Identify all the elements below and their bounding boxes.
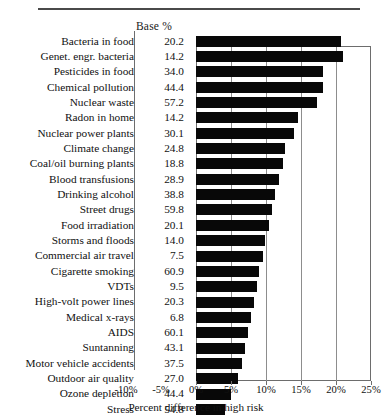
- risk-label: VDTs: [107, 279, 134, 294]
- risk-label: Pesticides in food: [54, 64, 134, 79]
- bar-12: [196, 220, 269, 231]
- base-percent-value: 9.5: [137, 279, 184, 294]
- base-percent-value: 44.4: [137, 80, 184, 95]
- base-percent-column-header: Base %: [136, 20, 190, 32]
- x-axis-title: Percent difference in high risk: [128, 401, 263, 413]
- bar-5: [196, 112, 298, 123]
- risk-label: Cigarette smoking: [51, 264, 134, 279]
- bar-10: [196, 189, 275, 200]
- base-percent-value: 38.8: [137, 187, 184, 202]
- x-tick-label-0: -10%: [115, 384, 138, 395]
- base-percent-value: 60.9: [137, 264, 184, 279]
- risk-label: High-volt power lines: [35, 294, 134, 309]
- risk-label: Medical x-rays: [66, 310, 134, 325]
- x-tick-label-1: -5%: [152, 384, 170, 395]
- bar-14: [196, 251, 263, 262]
- risk-label: Blood transfusions: [49, 172, 134, 187]
- bar-11: [196, 204, 272, 215]
- x-tickmark-6: [336, 381, 337, 385]
- bar-7: [196, 143, 285, 154]
- base-percent-value: 14.2: [137, 49, 184, 64]
- bar-17: [196, 297, 254, 308]
- x-tickmark-4: [266, 381, 267, 385]
- risk-label: Suntanning: [83, 340, 134, 355]
- risk-label: AIDS: [108, 325, 134, 340]
- bar-15: [196, 266, 259, 277]
- risk-label: Storms and floods: [52, 233, 134, 248]
- x-tickmark-7: [371, 381, 372, 385]
- bar-16: [196, 281, 257, 292]
- x-tick-label-4: 10%: [256, 384, 275, 395]
- base-percent-value: 43.1: [137, 340, 184, 355]
- base-percent-value: 28.9: [137, 172, 184, 187]
- top-divider-rule: [38, 8, 360, 10]
- risk-label: Bacteria in food: [61, 34, 134, 49]
- bar-0: [196, 36, 341, 47]
- base-percent-value: 14.2: [137, 110, 184, 125]
- base-percent-value: 37.5: [137, 356, 184, 371]
- bar-20: [196, 343, 245, 354]
- bar-19: [196, 327, 248, 338]
- risk-label: Street drugs: [80, 202, 134, 217]
- bar-4: [196, 97, 317, 108]
- bar-13: [196, 235, 265, 246]
- x-tick-label-6: 20%: [326, 384, 345, 395]
- x-tick-label-3: 5%: [224, 384, 238, 395]
- bar-1: [196, 51, 343, 62]
- base-percent-value: 24.8: [137, 141, 184, 156]
- x-tick-label-2: 0%: [189, 384, 203, 395]
- bar-9: [196, 174, 279, 185]
- bar-3: [196, 82, 323, 93]
- base-percent-value: 18.8: [137, 156, 184, 171]
- bar-2: [196, 66, 323, 77]
- risk-label: Genet. engr. bacteria: [41, 49, 134, 64]
- risk-label: Food irradiation: [61, 218, 134, 233]
- risk-label: Nuclear power plants: [37, 126, 134, 141]
- base-percent-value: 7.5: [137, 248, 184, 263]
- x-tick-label-7: 25%: [361, 384, 380, 395]
- base-percent-value: 14.0: [137, 233, 184, 248]
- base-percent-value: 34.0: [137, 64, 184, 79]
- base-percent-value: 20.2: [137, 34, 184, 49]
- risk-label: Nuclear waste: [70, 95, 134, 110]
- risk-label: Coal/oil burning plants: [30, 156, 134, 171]
- x-tickmark-2: [196, 381, 197, 385]
- base-percent-value: 30.1: [137, 126, 184, 141]
- risk-label: Drinking alcohol: [57, 187, 134, 202]
- risk-label: Climate change: [63, 141, 134, 156]
- bar-21: [196, 358, 242, 369]
- base-percent-value: 57.2: [137, 95, 184, 110]
- bar-6: [196, 128, 294, 139]
- base-percent-value: 60.1: [137, 325, 184, 340]
- risk-label: Radon in home: [65, 110, 134, 125]
- risk-label: Motor vehicle accidents: [25, 356, 134, 371]
- risk-label: Commercial air travel: [35, 248, 134, 263]
- x-tickmark-3: [231, 381, 232, 385]
- bar-18: [196, 312, 251, 323]
- x-tickmark-5: [301, 381, 302, 385]
- base-percent-value: 20.3: [137, 294, 184, 309]
- risk-label: Chemical pollution: [47, 80, 134, 95]
- base-percent-value: 6.8: [137, 310, 184, 325]
- bar-8: [196, 158, 283, 169]
- base-percent-value: 59.8: [137, 202, 184, 217]
- x-tick-label-5: 15%: [291, 384, 310, 395]
- base-percent-value: 20.1: [137, 218, 184, 233]
